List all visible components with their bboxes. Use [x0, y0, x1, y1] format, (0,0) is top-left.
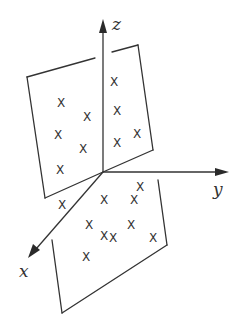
point-mark: X [113, 136, 121, 150]
lower-plane: XXXXXXXXXX [52, 180, 167, 313]
point-mark: X [113, 104, 121, 118]
upper-plane-top-edge-left [27, 58, 95, 77]
lower-plane-right-edge [158, 180, 167, 245]
upper-plane-top-edge-right [112, 45, 138, 52]
x-axis-label: x [19, 261, 29, 281]
coordinate-planes-diagram: XXXXXXXXX XXXXXXXXXX z y x [0, 0, 241, 332]
point-mark: X [110, 75, 118, 89]
x-axis [36, 172, 103, 249]
point-mark: X [127, 218, 135, 232]
point-mark: X [79, 142, 87, 156]
upper-plane-bottom-edge-right [103, 150, 153, 172]
point-mark: X [100, 193, 108, 207]
y-axis-arrowhead [215, 168, 229, 176]
point-mark: X [130, 193, 138, 207]
point-mark: X [56, 163, 64, 177]
upper-plane: XXXXXXXXX [27, 45, 153, 198]
upper-plane-left-edge [27, 77, 45, 198]
point-mark: X [83, 110, 91, 124]
lower-plane-left-edge [52, 240, 62, 313]
z-axis-label: z [111, 14, 122, 34]
lower-plane-bottom-edge [62, 245, 167, 313]
point-mark: X [57, 96, 65, 110]
point-mark: X [136, 180, 144, 194]
point-mark: X [82, 250, 90, 264]
point-mark: X [100, 229, 108, 243]
point-mark: X [133, 127, 141, 141]
point-mark: X [85, 218, 93, 232]
lower-plane-points: XXXXXXXXXX [58, 180, 157, 264]
point-mark: X [58, 198, 66, 212]
axes: z y x [19, 14, 229, 281]
y-axis-label: y [212, 179, 223, 199]
upper-plane-bottom-edge-left [45, 172, 103, 198]
point-mark: X [54, 128, 62, 142]
point-mark: X [109, 231, 117, 245]
upper-plane-points: XXXXXXXXX [54, 75, 141, 177]
point-mark: X [149, 231, 157, 245]
z-axis-arrowhead [99, 19, 107, 33]
